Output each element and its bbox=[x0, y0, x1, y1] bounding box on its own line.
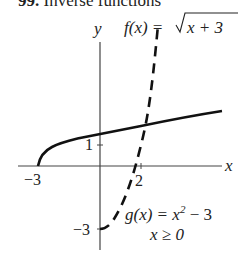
tick-label-y-1: 1 bbox=[85, 136, 93, 153]
tick-label-y-neg3: −3 bbox=[73, 221, 90, 238]
tick-label-x-2: 2 bbox=[135, 172, 143, 189]
g-label: g(x) = x2 − 3 bbox=[125, 203, 212, 224]
curve-f bbox=[38, 111, 222, 166]
curve-g bbox=[100, 25, 158, 229]
f-radicand: x + 3 bbox=[186, 18, 223, 37]
f-label: f(x) = bbox=[124, 18, 163, 37]
tick-label-x-neg3: −3 bbox=[24, 171, 41, 188]
x-axis-label: x bbox=[224, 156, 233, 175]
g-domain-label: x ≥ 0 bbox=[149, 225, 184, 244]
graph: y x −3 2 1 −3 f(x) = x + 3 g(x) = x2 − 3… bbox=[0, 0, 245, 262]
y-axis-label: y bbox=[92, 19, 102, 38]
